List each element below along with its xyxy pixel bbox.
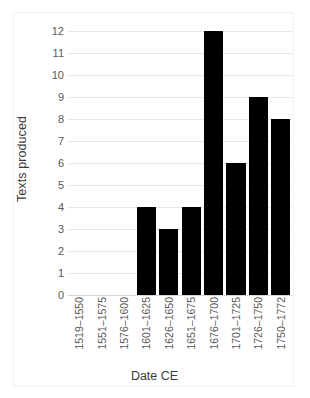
x-axis-tick-labels: 1519–15501551–15751576–16001601–16251626… bbox=[68, 297, 292, 369]
x-axis-tick-label: 1626–1650 bbox=[164, 297, 175, 350]
bar-slot bbox=[247, 31, 269, 295]
x-tick-slot: 1519–1550 bbox=[68, 297, 90, 369]
x-axis-tick-label: 1519–1550 bbox=[74, 297, 85, 350]
bar bbox=[182, 207, 201, 295]
x-axis-tick-label: 1651–1675 bbox=[186, 297, 197, 350]
x-axis-title: Date CE bbox=[14, 369, 295, 383]
y-axis-tick-label: 9 bbox=[38, 92, 64, 103]
y-axis-tick-label: 8 bbox=[38, 114, 64, 125]
x-axis-tick-label: 1726–1750 bbox=[253, 297, 264, 350]
x-tick-slot: 1676–1700 bbox=[202, 297, 224, 369]
bar bbox=[159, 229, 178, 295]
bar-slot bbox=[68, 31, 90, 295]
bar bbox=[249, 97, 268, 295]
y-axis-tick-label: 4 bbox=[38, 202, 64, 213]
x-tick-slot: 1750–1772 bbox=[270, 297, 292, 369]
bar-slot bbox=[225, 31, 247, 295]
x-tick-slot: 1551–1575 bbox=[90, 297, 112, 369]
x-tick-slot: 1626–1650 bbox=[158, 297, 180, 369]
y-axis-tick-label: 10 bbox=[38, 70, 64, 81]
bar-chart: Texts produced 1211109876543210 1519–155… bbox=[13, 12, 294, 387]
x-tick-slot: 1701–1725 bbox=[225, 297, 247, 369]
y-axis-tick-label: 3 bbox=[38, 224, 64, 235]
bar-slot bbox=[202, 31, 224, 295]
y-axis-tick-label: 6 bbox=[38, 158, 64, 169]
y-axis-tick-label: 5 bbox=[38, 180, 64, 191]
bar-slot bbox=[135, 31, 157, 295]
bar-slot bbox=[270, 31, 292, 295]
x-axis-tick-label: 1576–1600 bbox=[119, 297, 130, 350]
x-tick-slot: 1651–1675 bbox=[180, 297, 202, 369]
y-axis-tick-label: 7 bbox=[38, 136, 64, 147]
bar-slot bbox=[180, 31, 202, 295]
x-tick-slot: 1601–1625 bbox=[135, 297, 157, 369]
bar bbox=[226, 163, 245, 295]
bar-slot bbox=[158, 31, 180, 295]
bar-slot bbox=[90, 31, 112, 295]
y-axis-tick-label: 1 bbox=[38, 268, 64, 279]
x-axis-tick-label: 1676–1700 bbox=[208, 297, 219, 350]
y-axis-title: Texts produced bbox=[11, 13, 33, 305]
bar bbox=[204, 31, 223, 295]
bar bbox=[271, 119, 290, 295]
bar-series bbox=[68, 31, 292, 295]
x-tick-slot: 1726–1750 bbox=[247, 297, 269, 369]
x-tick-slot: 1576–1600 bbox=[113, 297, 135, 369]
x-axis-tick-label: 1750–1772 bbox=[276, 297, 287, 350]
y-axis-tick-label: 12 bbox=[38, 26, 64, 37]
y-axis-tick-labels: 1211109876543210 bbox=[38, 31, 64, 295]
y-axis-tick-label: 0 bbox=[38, 290, 64, 301]
x-axis-tick-label: 1701–1725 bbox=[231, 297, 242, 350]
bar bbox=[137, 207, 156, 295]
x-axis-tick-label: 1551–1575 bbox=[96, 297, 107, 350]
y-axis-tick-label: 11 bbox=[38, 48, 64, 59]
x-axis-tick-label: 1601–1625 bbox=[141, 297, 152, 350]
bar-slot bbox=[113, 31, 135, 295]
plot-area bbox=[68, 31, 292, 295]
y-axis-tick-label: 2 bbox=[38, 246, 64, 257]
